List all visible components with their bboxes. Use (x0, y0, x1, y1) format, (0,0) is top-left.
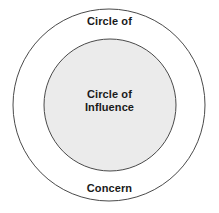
outer-circle-label-top: Circle of (0, 15, 219, 28)
outer-circle-label-bottom: Concern (0, 182, 219, 195)
outer-circle-label-top-text: Circle of (0, 15, 219, 28)
inner-circle-label-line-2: Influence (0, 101, 219, 114)
outer-circle-label-bottom-text: Concern (0, 182, 219, 195)
concentric-circles-diagram: Circle of Circle of Influence Concern (0, 0, 219, 213)
inner-circle-label-line-1: Circle of (0, 88, 219, 101)
inner-circle-label: Circle of Influence (0, 88, 219, 114)
